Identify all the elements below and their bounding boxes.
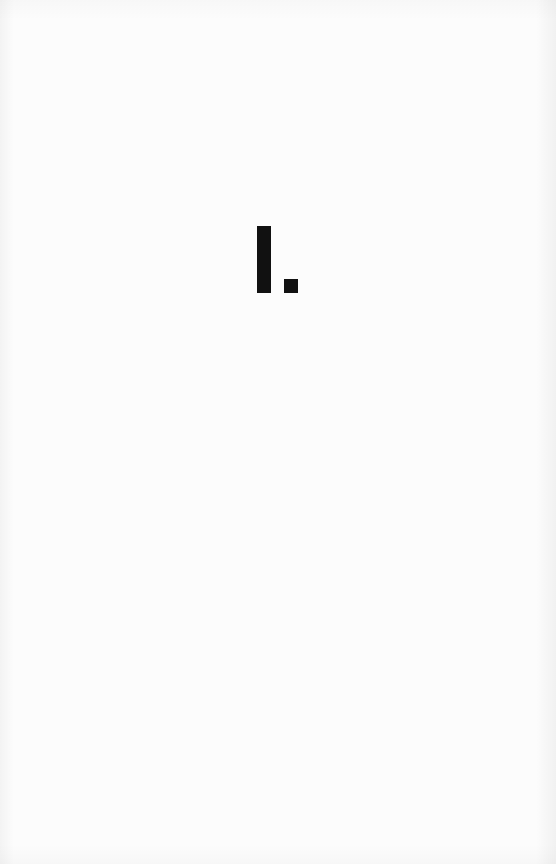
chapter-numeral: I. — [257, 226, 298, 293]
book-page: I. — [0, 0, 556, 864]
numeral-period-glyph — [284, 279, 298, 293]
numeral-roman-one-glyph — [257, 226, 271, 293]
